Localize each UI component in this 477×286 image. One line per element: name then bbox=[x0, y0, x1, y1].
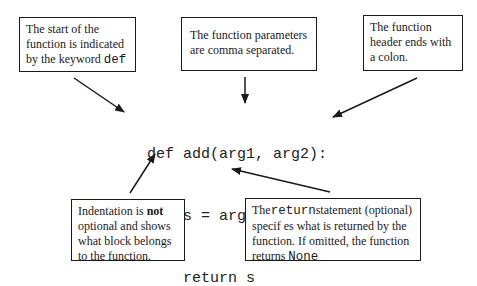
arrow-colon bbox=[333, 78, 417, 117]
return-keyword: return bbox=[271, 204, 316, 218]
annotation-def-keyword: The start of the function is indicated b… bbox=[19, 17, 136, 72]
annotation-text: The bbox=[252, 203, 271, 217]
annotation-text: The function parameters are comma separa… bbox=[190, 28, 307, 57]
code-line-1: def add(arg1, arg2): bbox=[147, 144, 327, 165]
annotation-text: Indentation is bbox=[78, 204, 147, 218]
annotation-indentation: Indentation is not optional and shows wh… bbox=[71, 199, 185, 261]
annotation-text: The function header ends with a colon. bbox=[370, 20, 451, 64]
annotation-colon: The function header ends with a colon. bbox=[363, 15, 463, 71]
arrow-def bbox=[74, 78, 124, 112]
annotation-parameters: The function parameters are comma separa… bbox=[181, 17, 317, 71]
def-keyword: def bbox=[104, 53, 127, 67]
emphasis-not: not bbox=[147, 204, 164, 218]
annotation-return: Thereturnstatement (optional) specif es … bbox=[245, 198, 421, 261]
annotation-text-2: optional and shows what block belongs to… bbox=[78, 219, 171, 263]
none-keyword: None bbox=[288, 250, 318, 264]
code-line-3: return s bbox=[147, 268, 327, 286]
